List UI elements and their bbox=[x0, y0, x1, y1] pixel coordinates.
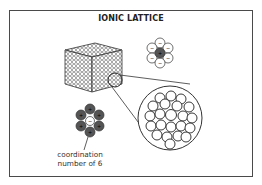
anion-coordination-cluster-icon: + + + + + + − bbox=[76, 104, 104, 137]
caption-pointer-line bbox=[84, 137, 88, 150]
svg-text:−: − bbox=[166, 45, 170, 51]
connector-line bbox=[120, 75, 190, 84]
svg-text:+: + bbox=[79, 112, 83, 118]
coordination-caption: coordination number of 6 bbox=[48, 150, 112, 168]
svg-text:+: + bbox=[88, 129, 92, 135]
cation-coordination-cluster-icon: − − − − − − + bbox=[147, 38, 173, 68]
caption-line-1: coordination bbox=[48, 150, 112, 159]
magnify-source-icon bbox=[108, 73, 122, 87]
svg-text:+: + bbox=[158, 50, 162, 56]
svg-text:−: − bbox=[158, 40, 162, 46]
svg-text:+: + bbox=[97, 123, 101, 129]
caption-line-2: number of 6 bbox=[48, 159, 112, 168]
svg-text:−: − bbox=[150, 45, 154, 51]
svg-text:−: − bbox=[166, 55, 170, 61]
svg-text:−: − bbox=[158, 60, 162, 66]
svg-text:−: − bbox=[150, 55, 154, 61]
ionic-lattice-diagram: − − − − − − + + + + + + + − bbox=[0, 0, 262, 185]
svg-text:+: + bbox=[97, 112, 101, 118]
svg-text:−: − bbox=[88, 118, 92, 124]
magnified-lens-icon bbox=[138, 86, 202, 150]
svg-text:+: + bbox=[88, 106, 92, 112]
svg-text:+: + bbox=[79, 123, 83, 129]
